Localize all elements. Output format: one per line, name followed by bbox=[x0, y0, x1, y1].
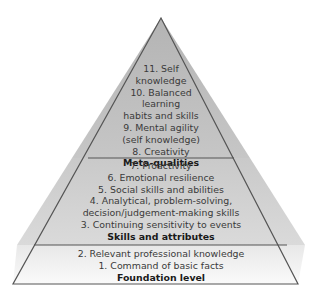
tier-item: 8. Creativity bbox=[0, 146, 322, 158]
tier-item: 11. Self bbox=[0, 63, 322, 75]
tier-meta-qualities: 11. Self knowledge 10. Balanced learning… bbox=[0, 63, 322, 169]
tier-skills-and-attributes: 7. Proactivity 6. Emotional resilience 5… bbox=[0, 160, 322, 243]
tier-foundation-level: 2. Relevant professional knowledge 1. Co… bbox=[0, 248, 322, 283]
tier-item: 6. Emotional resilience bbox=[0, 172, 322, 184]
tier-item: decision/judgement-making skills bbox=[0, 207, 322, 219]
tier-item: 5. Social skills and abilities bbox=[0, 184, 322, 196]
tier-item: learning bbox=[0, 98, 322, 110]
tier-item: 9. Mental agility bbox=[0, 122, 322, 134]
tier-item: 4. Analytical, problem-solving, bbox=[0, 195, 322, 207]
tier-item: 1. Command of basic facts bbox=[0, 260, 322, 272]
tier-item: 7. Proactivity bbox=[0, 160, 322, 172]
tier-item: 10. Balanced bbox=[0, 87, 322, 99]
tier-item: 3. Continuing sensitivity to events bbox=[0, 219, 322, 231]
tier-item: knowledge bbox=[0, 75, 322, 87]
tier-item: habits and skills bbox=[0, 110, 322, 122]
tier-item: (self knowledge) bbox=[0, 134, 322, 146]
tier-label: Foundation level bbox=[0, 272, 322, 284]
tier-item: 2. Relevant professional knowledge bbox=[0, 248, 322, 260]
tier-label: Skills and attributes bbox=[0, 231, 322, 243]
